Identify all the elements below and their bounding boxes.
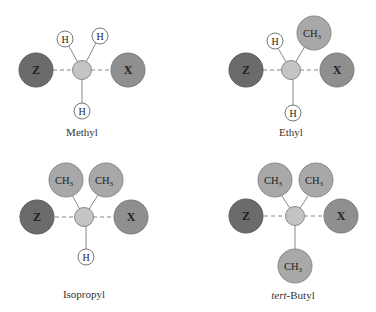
hydrogen-label: H xyxy=(271,36,278,47)
x-label: X xyxy=(127,210,136,224)
panel-tert-butyl: Z X CH3 CH3 CH3 tert-Butyl xyxy=(229,163,358,301)
z-label: Z xyxy=(32,63,40,77)
x-label: X xyxy=(337,209,346,223)
central-carbon xyxy=(75,208,94,227)
hydrogen-label: H xyxy=(82,252,89,263)
hydrogen-label: H xyxy=(289,108,296,119)
hydrogen-label: H xyxy=(78,106,85,117)
central-carbon xyxy=(282,61,301,80)
panel-label: Isopropyl xyxy=(63,288,105,300)
alkyl-group-diagram: Z X H H H Methyl Z X H CH3 H Ethyl xyxy=(0,0,376,312)
hydrogen-label: H xyxy=(96,31,103,42)
panel-label: Methyl xyxy=(66,126,98,138)
central-carbon xyxy=(73,61,92,80)
x-label: X xyxy=(124,63,133,77)
panel-label: tert-Butyl xyxy=(271,289,314,301)
panel-ethyl: Z X H CH3 H Ethyl xyxy=(229,16,354,138)
hydrogen-label: H xyxy=(61,34,68,45)
panel-methyl: Z X H H H Methyl xyxy=(19,28,145,138)
z-label: Z xyxy=(33,210,41,224)
x-label: X xyxy=(333,63,342,77)
z-label: Z xyxy=(242,209,250,223)
z-label: Z xyxy=(242,63,250,77)
panel-label: Ethyl xyxy=(279,126,303,138)
panel-isopropyl: Z X CH3 CH3 H Isopropyl xyxy=(20,163,148,300)
central-carbon xyxy=(286,207,305,226)
